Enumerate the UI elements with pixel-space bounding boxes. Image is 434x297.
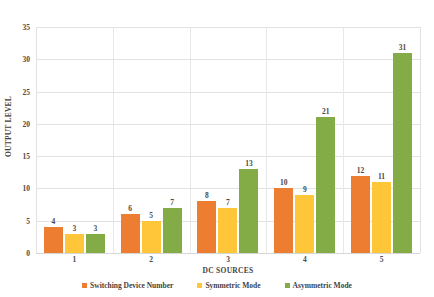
bar-column[interactable]: 7	[218, 27, 237, 253]
bar-column[interactable]: 21	[316, 27, 335, 253]
x-axis-title: DC SOURCES	[36, 266, 420, 275]
bar-value-label: 9	[290, 185, 320, 194]
bar[interactable]	[239, 169, 258, 253]
x-axis-tick-label: 5	[367, 255, 397, 264]
bar[interactable]	[316, 117, 335, 253]
bar-value-label: 5	[136, 211, 166, 220]
bar-group-bars: 10921	[266, 27, 343, 253]
bar-group-bars: 8713	[190, 27, 267, 253]
bar-group: 433	[36, 27, 113, 253]
bar-column[interactable]: 3	[65, 27, 84, 253]
bar[interactable]	[163, 208, 182, 253]
bar[interactable]	[121, 214, 140, 253]
bar-value-label: 31	[388, 43, 418, 52]
bar-group: 10921	[266, 27, 343, 253]
y-axis-tick-label: 15	[23, 152, 31, 161]
bar-group: 657	[113, 27, 190, 253]
bar-value-label: 21	[311, 107, 341, 116]
bar-value-label: 13	[234, 159, 264, 168]
x-axis-tick-label: 1	[59, 255, 89, 264]
bar-value-label: 7	[157, 198, 187, 207]
y-axis-tick-label: 5	[26, 216, 30, 225]
bar-column[interactable]: 3	[86, 27, 105, 253]
y-axis-tick-label: 35	[23, 23, 31, 32]
legend-item[interactable]: Switching Device Number	[82, 281, 173, 290]
legend-swatch-icon	[285, 283, 290, 288]
bar-column[interactable]: 7	[163, 27, 182, 253]
bar-column[interactable]: 4	[44, 27, 63, 253]
plot-area: 433657871310921121131	[36, 27, 420, 253]
bar[interactable]	[274, 188, 293, 253]
bar-group-bars: 657	[113, 27, 190, 253]
legend-item[interactable]: Symmetric Mode	[197, 281, 260, 290]
bar-group: 121131	[343, 27, 420, 253]
y-axis-title-label: OUTPUT LEVEL	[4, 96, 13, 157]
y-axis-tick-label: 20	[23, 119, 31, 128]
bar-column[interactable]: 12	[351, 27, 370, 253]
legend-swatch-icon	[197, 283, 202, 288]
bar-column[interactable]: 5	[142, 27, 161, 253]
y-axis-tick-label: 30	[23, 55, 31, 64]
bar-column[interactable]: 8	[197, 27, 216, 253]
chart-legend: Switching Device NumberSymmetric ModeAsy…	[0, 281, 434, 290]
bar[interactable]	[142, 221, 161, 253]
bar[interactable]	[218, 208, 237, 253]
bar[interactable]	[295, 195, 314, 253]
y-axis-tick-label: 10	[23, 184, 31, 193]
bar-column[interactable]: 10	[274, 27, 293, 253]
bar-group: 8713	[190, 27, 267, 253]
bar-value-label: 3	[80, 224, 110, 233]
x-axis-tick-label: 3	[213, 255, 243, 264]
bar[interactable]	[86, 234, 105, 253]
bar[interactable]	[197, 201, 216, 253]
legend-label: Switching Device Number	[90, 281, 173, 290]
bar-chart: OUTPUT LEVEL 05101520253035 433657871310…	[0, 0, 434, 297]
bar-group-bars: 433	[36, 27, 113, 253]
bar-value-label: 7	[213, 198, 243, 207]
bar-column[interactable]: 13	[239, 27, 258, 253]
bar-value-label: 11	[367, 172, 397, 181]
y-axis-tick-labels: 05101520253035	[14, 27, 34, 253]
legend-item[interactable]: Asymmetric Mode	[285, 281, 352, 290]
bar[interactable]	[351, 176, 370, 253]
legend-label: Symmetric Mode	[205, 281, 260, 290]
bar-column[interactable]: 9	[295, 27, 314, 253]
bar[interactable]	[372, 182, 391, 253]
bar-group-bars: 121131	[343, 27, 420, 253]
x-axis-tick-label: 2	[136, 255, 166, 264]
bar-column[interactable]: 31	[393, 27, 412, 253]
bar[interactable]	[65, 234, 84, 253]
x-axis-tick-label: 4	[290, 255, 320, 264]
bar[interactable]	[393, 53, 412, 253]
y-axis-tick-label: 0	[26, 249, 30, 258]
legend-label: Asymmetric Mode	[293, 281, 352, 290]
gridline-horizontal	[36, 253, 420, 254]
gridline-vertical	[420, 27, 421, 253]
legend-swatch-icon	[82, 283, 87, 288]
y-axis-tick-label: 25	[23, 87, 31, 96]
bar-column[interactable]: 11	[372, 27, 391, 253]
